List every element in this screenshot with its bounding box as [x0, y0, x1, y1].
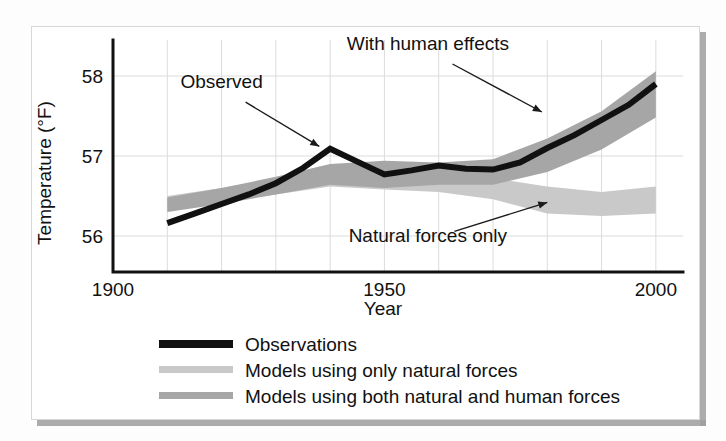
annotation-label-0: Observed: [180, 71, 262, 92]
climate-temperature-chart: 565758 190019502000 Temperature (°F) Yea…: [31, 26, 700, 420]
x-axis-tick-labels: 190019502000: [92, 279, 677, 300]
annotation-arrowhead-1: [532, 105, 542, 112]
annotation-arrowhead-0: [310, 139, 320, 147]
legend-label-2: Models using both natural and human forc…: [245, 386, 620, 407]
chart-annotations: ObservedWith human effectsNatural forces…: [180, 33, 547, 246]
card-shadow-right: [700, 32, 706, 426]
x-axis-title: Year: [364, 298, 403, 319]
screenshot-root: 565758 190019502000 Temperature (°F) Yea…: [0, 0, 726, 441]
legend-label-1: Models using only natural forces: [245, 360, 517, 381]
x-tick-label: 2000: [635, 279, 677, 300]
annotation-arrow-1: [453, 64, 542, 112]
y-tick-label: 56: [82, 226, 103, 247]
legend-swatch-0: [159, 340, 233, 348]
legend-swatch-1: [159, 366, 233, 373]
x-tick-label: 1950: [363, 279, 405, 300]
x-tick-label: 1900: [92, 279, 134, 300]
y-axis-title: Temperature (°F): [34, 101, 55, 245]
annotation-arrow-0: [246, 102, 320, 146]
legend-label-0: Observations: [245, 334, 357, 355]
annotation-label-2: Natural forces only: [349, 225, 508, 246]
annotation-label-1: With human effects: [347, 33, 509, 54]
chart-legend: ObservationsModels using only natural fo…: [159, 334, 620, 407]
legend-swatch-2: [159, 392, 233, 399]
card-shadow-bottom: [37, 420, 706, 426]
y-axis-tick-labels: 565758: [82, 66, 103, 247]
y-tick-label: 57: [82, 146, 103, 167]
y-tick-label: 58: [82, 66, 103, 87]
